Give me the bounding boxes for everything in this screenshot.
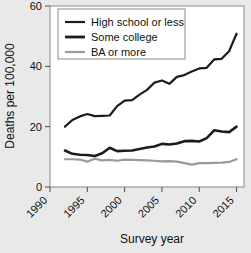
chart-figure: 0204060 199019952000200520102015 Deaths … xyxy=(0,0,251,253)
y-axis-title: Deaths per 100,000 xyxy=(3,43,17,149)
y-tick-label: 60 xyxy=(30,0,42,12)
legend-label-2: BA or more xyxy=(91,46,146,58)
x-axis-title: Survey year xyxy=(120,232,184,246)
legend-label-1: Some college xyxy=(91,31,158,43)
y-tick-label: 40 xyxy=(30,60,42,72)
chart-legend: High school or lessSome collegeBA or mor… xyxy=(58,9,185,59)
survey-year-deaths-line-chart: 0204060 199019952000200520102015 Deaths … xyxy=(0,0,251,253)
legend-label-0: High school or less xyxy=(91,16,184,28)
y-tick-label: 20 xyxy=(30,121,42,133)
y-tick-label: 0 xyxy=(36,181,42,193)
